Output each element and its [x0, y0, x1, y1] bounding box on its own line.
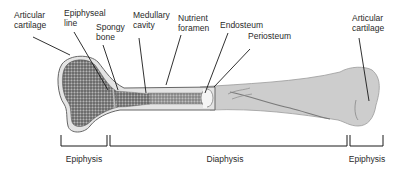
label-medullary-cavity: Medullary cavity	[133, 10, 170, 30]
region-label-epiphysis-right: Epiphysis	[345, 154, 389, 164]
label-articular-cartilage-left: Articular cartilage	[14, 10, 46, 30]
bone-section	[58, 56, 215, 132]
region-brackets	[61, 135, 383, 146]
bone-exterior	[200, 67, 379, 126]
label-periosteum: Periosteum	[248, 31, 291, 41]
region-label-epiphysis-left: Epiphysis	[60, 154, 108, 164]
label-endosteum: Endosteum	[220, 20, 263, 30]
label-spongy-bone: Spongy bone	[96, 22, 125, 42]
label-articular-cartilage-right: Articular cartilage	[352, 13, 384, 33]
label-nutrient-foramen: Nutrient foramen	[178, 13, 209, 33]
region-label-diaphysis: Diaphysis	[200, 154, 250, 164]
